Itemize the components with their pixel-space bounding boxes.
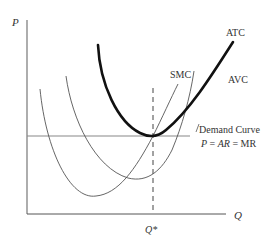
demand-curve-label: Demand Curve [199,124,260,135]
atc-label: ATC [226,27,245,38]
smc-label: SMC [170,69,191,80]
y-axis-label: P [11,16,19,28]
atc-curve [98,42,233,136]
price-equals-ar-mr-label: P = AR = MR [200,138,257,149]
q-star-label: Q* [145,224,157,235]
avc-label: AVC [228,74,248,85]
cost-curves-diagram: P Q Q* ATC SMC AVC Demand Curve P = AR =… [0,0,272,247]
smc-curve [40,84,178,196]
x-axis-label: Q [234,209,242,221]
